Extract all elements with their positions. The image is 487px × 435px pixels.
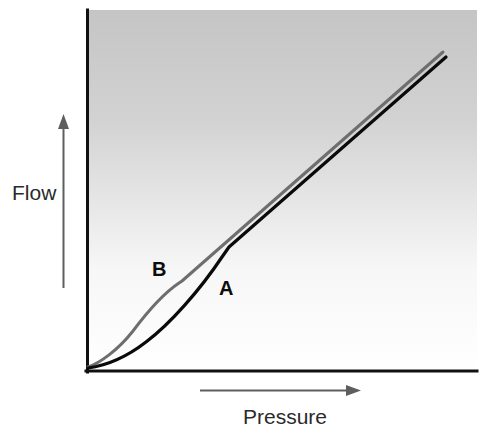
figure-container: B A Flow Pressure — [0, 0, 487, 435]
curve-label-b: B — [152, 258, 166, 280]
curve-label-a: A — [219, 277, 233, 299]
pressure-direction-arrow — [200, 385, 361, 396]
flow-direction-arrow — [58, 114, 69, 288]
x-axis-label: Pressure — [243, 405, 327, 428]
plot-area-background — [87, 10, 477, 372]
flow-arrow-head — [58, 114, 69, 129]
flow-pressure-chart: B A Flow Pressure — [0, 0, 487, 435]
y-axis-label: Flow — [12, 181, 57, 204]
pressure-arrow-head — [346, 385, 361, 396]
